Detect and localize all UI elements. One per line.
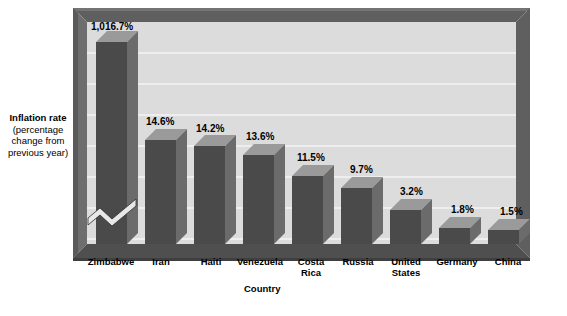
value-label-china: 1.5% — [500, 206, 523, 217]
inflation-rate-bar-chart: Inflation rate (percentage change from p… — [0, 0, 567, 316]
bar-venezuela-front — [243, 155, 274, 244]
value-label-iran: 14.6% — [146, 116, 174, 127]
bar-haiti-side — [225, 135, 236, 244]
bar-iran-side — [176, 129, 187, 244]
bar-venezuela[interactable] — [243, 144, 285, 244]
bar-united-states[interactable] — [390, 199, 432, 244]
bar-russia-front — [341, 188, 372, 244]
bar-iran-front — [145, 140, 176, 244]
bar-costa-rica-side — [323, 165, 334, 244]
x-tick-costa-rica-line-2: Rica — [279, 267, 343, 278]
bar-haiti[interactable] — [194, 135, 236, 244]
chart-left-wall-shade — [73, 8, 78, 258]
bar-costa-rica-front — [292, 176, 323, 244]
bar-russia-side — [372, 177, 383, 244]
bar-haiti-front — [194, 146, 225, 244]
bar-united-states-front — [390, 210, 421, 244]
value-label-haiti: 14.2% — [196, 123, 224, 134]
x-axis-label: Country — [244, 283, 280, 294]
value-label-germany: 1.8% — [451, 204, 474, 215]
bar-venezuela-side — [274, 144, 285, 244]
bar-germany-front — [439, 228, 470, 244]
bar-china-front — [488, 230, 519, 244]
x-tick-united-states-line-2: States — [373, 267, 439, 278]
value-label-costa-rica: 11.5% — [297, 152, 325, 163]
value-label-russia: 9.7% — [350, 164, 373, 175]
bar-costa-rica[interactable] — [292, 165, 334, 244]
x-tick-label-china: China — [475, 256, 541, 267]
value-label-zimbabwe: 1,016.7% — [91, 21, 133, 32]
x-tick-china-line-1: China — [475, 256, 541, 267]
bar-iran[interactable] — [145, 129, 187, 244]
value-label-venezuela: 13.6% — [246, 131, 274, 142]
value-label-united-states: 3.2% — [400, 186, 423, 197]
bar-russia[interactable] — [341, 177, 383, 244]
chart-frame-top-highlight — [73, 8, 530, 11]
